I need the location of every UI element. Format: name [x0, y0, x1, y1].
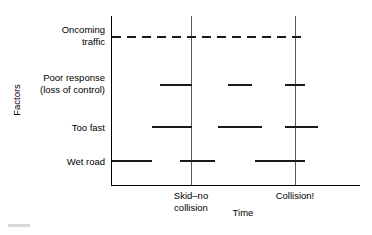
row-label-wet-road: Wet road: [67, 156, 105, 167]
page-artifact: [8, 224, 30, 227]
row-label-oncoming-traffic-line2: traffic: [82, 36, 105, 47]
row-label-poor-response-line2: (loss of control): [40, 84, 105, 95]
x-tick-label-collision: Collision!: [276, 190, 315, 201]
row-label-too-fast: Too fast: [72, 122, 106, 133]
x-tick-label-skid-line2: collision: [174, 202, 208, 213]
cause-effect-timeline-chart: Factors Oncoming traffic Poor response (…: [0, 0, 372, 235]
chart-container: Factors Oncoming traffic Poor response (…: [0, 0, 372, 235]
x-axis-title: Time: [233, 207, 254, 218]
row-label-poor-response-line1: Poor response: [43, 72, 105, 83]
y-axis-title: Factors: [11, 84, 22, 116]
x-tick-label-skid-line1: Skid–no: [174, 190, 208, 201]
row-label-oncoming-traffic-line1: Oncoming: [62, 24, 105, 35]
